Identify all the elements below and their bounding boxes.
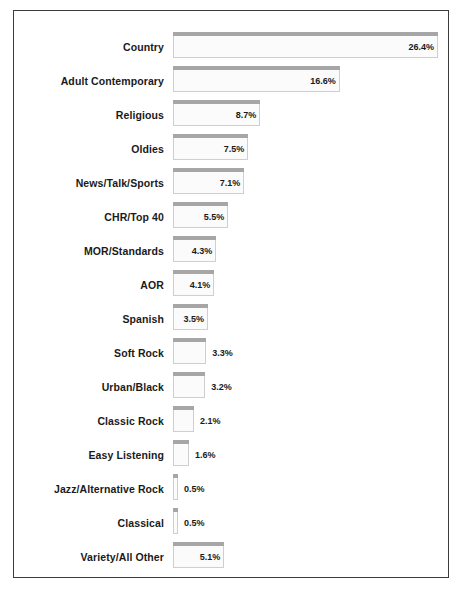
bar-category-label: AOR — [14, 270, 164, 300]
bar-row: Jazz/Alternative Rock0.5% — [14, 474, 450, 504]
bar-value-label: 7.5% — [173, 138, 248, 160]
bar-chart-plot-area: Country26.4%Adult Contemporary16.6%Relig… — [14, 11, 450, 579]
bar-category-label: Religious — [14, 100, 164, 130]
bar-category-label: Classical — [14, 508, 164, 538]
bar-row: Country26.4% — [14, 32, 450, 62]
bar-category-label: Variety/All Other — [14, 542, 164, 572]
bar-top-stripe — [173, 338, 206, 342]
bar-row: Oldies7.5% — [14, 134, 450, 164]
bar-row: CHR/Top 405.5% — [14, 202, 450, 232]
bar-category-label: CHR/Top 40 — [14, 202, 164, 232]
bar-row: Soft Rock3.3% — [14, 338, 450, 368]
bar-value-label: 2.1% — [200, 410, 221, 432]
chart-frame: Country26.4%Adult Contemporary16.6%Relig… — [13, 10, 449, 578]
bar-value-label: 3.5% — [173, 308, 208, 330]
bar-row: Adult Contemporary16.6% — [14, 66, 450, 96]
bar-category-label: News/Talk/Sports — [14, 168, 164, 198]
bar-row: Religious8.7% — [14, 100, 450, 130]
bar-value-label: 7.1% — [173, 172, 244, 194]
bar-top-stripe — [173, 406, 194, 410]
bar — [173, 444, 189, 466]
bar-value-label: 1.6% — [195, 444, 216, 466]
bar-category-label: Spanish — [14, 304, 164, 334]
bar-value-label: 5.5% — [173, 206, 228, 228]
bar-row: MOR/Standards4.3% — [14, 236, 450, 266]
bar-category-label: Country — [14, 32, 164, 62]
bar-row: AOR4.1% — [14, 270, 450, 300]
bar-category-label: Soft Rock — [14, 338, 164, 368]
bar-top-stripe — [173, 372, 205, 376]
bar-category-label: Classic Rock — [14, 406, 164, 436]
bar-value-label: 0.5% — [184, 478, 205, 500]
bar-value-label: 3.2% — [211, 376, 232, 398]
bar-category-label: Adult Contemporary — [14, 66, 164, 96]
bar-row: Spanish3.5% — [14, 304, 450, 334]
bar-value-label: 3.3% — [212, 342, 233, 364]
bar-value-label: 26.4% — [173, 36, 438, 58]
bar-category-label: Jazz/Alternative Rock — [14, 474, 164, 504]
bar-row: Urban/Black3.2% — [14, 372, 450, 402]
bar-row: News/Talk/Sports7.1% — [14, 168, 450, 198]
bar-row: Easy Listening1.6% — [14, 440, 450, 470]
bar-value-label: 4.1% — [173, 274, 214, 296]
bar — [173, 376, 205, 398]
bar — [173, 410, 194, 432]
bar-row: Classical0.5% — [14, 508, 450, 538]
bar-category-label: Oldies — [14, 134, 164, 164]
bar-row: Variety/All Other5.1% — [14, 542, 450, 572]
bar — [173, 342, 206, 364]
bar-top-stripe — [173, 508, 178, 512]
bar-value-label: 5.1% — [173, 546, 224, 568]
bar-category-label: Easy Listening — [14, 440, 164, 470]
bar-category-label: Urban/Black — [14, 372, 164, 402]
bar-top-stripe — [173, 440, 189, 444]
bar — [173, 512, 178, 534]
bar-top-stripe — [173, 474, 178, 478]
bar-row: Classic Rock2.1% — [14, 406, 450, 436]
bar-value-label: 8.7% — [173, 104, 260, 126]
bar-value-label: 0.5% — [184, 512, 205, 534]
bar-category-label: MOR/Standards — [14, 236, 164, 266]
bar — [173, 478, 178, 500]
bar-value-label: 16.6% — [173, 70, 340, 92]
bar-value-label: 4.3% — [173, 240, 216, 262]
